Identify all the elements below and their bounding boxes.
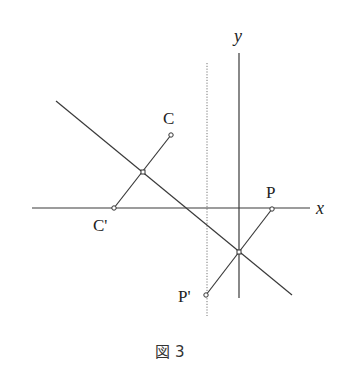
point-cprime-marker bbox=[112, 206, 116, 210]
label-c: C bbox=[163, 109, 174, 128]
label-pprime: P' bbox=[178, 287, 191, 306]
diagonal-line bbox=[56, 101, 292, 295]
y-axis-label: y bbox=[232, 26, 242, 46]
label-p: P bbox=[266, 183, 275, 202]
label-cprime: C' bbox=[93, 216, 107, 235]
point-p-marker bbox=[270, 207, 274, 211]
point-c-marker bbox=[169, 133, 173, 137]
x-axis-label: x bbox=[315, 198, 324, 218]
midpoint-c-marker bbox=[141, 170, 145, 174]
coordinate-diagram: C C' P P' x y bbox=[0, 0, 340, 379]
point-pprime-marker bbox=[204, 293, 208, 297]
figure-caption: 図 3 bbox=[0, 340, 340, 361]
midpoint-p-marker bbox=[237, 250, 241, 254]
